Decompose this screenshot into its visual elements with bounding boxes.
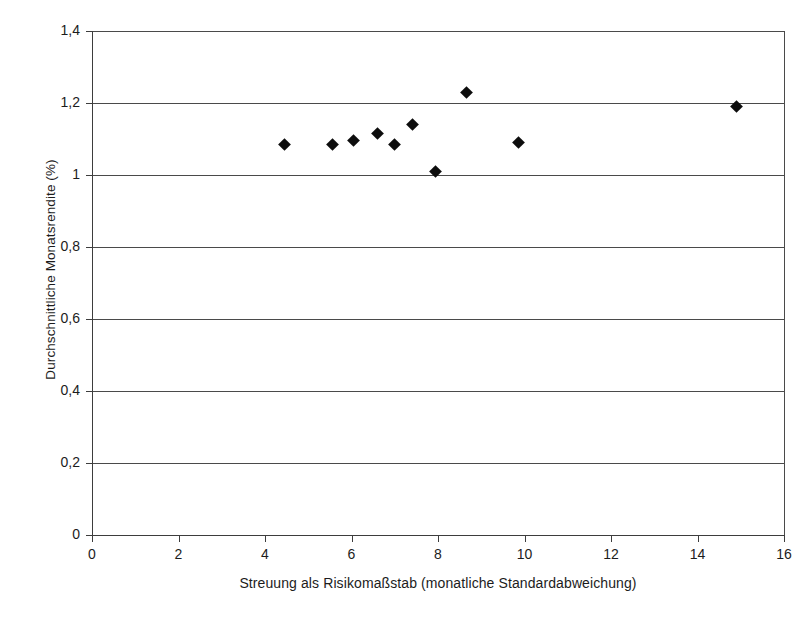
y-axis-tick <box>86 31 93 32</box>
data-point <box>388 138 401 151</box>
x-axis-tick <box>698 535 699 542</box>
x-axis-tick <box>784 535 785 542</box>
data-point <box>406 118 419 131</box>
x-axis-tick-label: 6 <box>330 546 374 562</box>
x-axis-title: Streuung als Risikomaßstab (monatliche S… <box>92 575 784 591</box>
grid-line-horizontal <box>92 319 784 320</box>
x-axis-tick <box>438 535 439 542</box>
x-axis-tick <box>352 535 353 542</box>
y-axis-tick-label: 1 <box>40 166 80 182</box>
y-axis-tick <box>86 103 93 104</box>
y-axis-tick-label: 1,4 <box>40 22 80 38</box>
y-axis-tick-label: 1,2 <box>40 94 80 110</box>
y-axis-tick <box>86 247 93 248</box>
y-axis-tick-label: 0,8 <box>40 238 80 254</box>
plot-right-border <box>784 31 785 535</box>
x-axis-tick-label: 14 <box>676 546 720 562</box>
grid-line-horizontal <box>92 31 784 32</box>
x-axis-tick <box>92 535 93 542</box>
grid-line-horizontal <box>92 247 784 248</box>
x-axis-tick-label: 4 <box>243 546 287 562</box>
grid-line-horizontal <box>92 463 784 464</box>
plot-area <box>92 31 784 535</box>
x-axis-tick-label: 10 <box>503 546 547 562</box>
data-point <box>512 136 525 149</box>
y-axis-tick <box>86 319 93 320</box>
x-axis-tick <box>611 535 612 542</box>
y-axis-tick-label: 0,6 <box>40 310 80 326</box>
x-axis-tick <box>265 535 266 542</box>
y-axis-tick-label: 0 <box>40 526 80 542</box>
data-point <box>347 134 360 147</box>
data-point <box>326 138 339 151</box>
y-axis-tick-label: 0,4 <box>40 382 80 398</box>
data-point <box>460 86 473 99</box>
x-axis-tick-label: 8 <box>416 546 460 562</box>
data-point <box>371 127 384 140</box>
y-axis-tick <box>86 391 93 392</box>
x-axis-tick <box>525 535 526 542</box>
x-axis-tick-label: 2 <box>157 546 201 562</box>
x-axis-tick <box>179 535 180 542</box>
x-axis-tick-label: 16 <box>762 546 804 562</box>
y-axis-tick <box>86 175 93 176</box>
y-axis-tick <box>86 463 93 464</box>
y-axis-tick-label: 0,2 <box>40 454 80 470</box>
data-point <box>278 138 291 151</box>
x-axis-tick-label: 0 <box>70 546 114 562</box>
y-axis-tick-labels: 00,20,40,60,811,21,4 <box>28 0 80 626</box>
scatter-chart-figure: Durchschnittliche Monatsrendite (%) 00,2… <box>0 0 804 626</box>
x-axis-tick-label: 12 <box>589 546 633 562</box>
grid-line-horizontal <box>92 391 784 392</box>
grid-line-horizontal <box>92 103 784 104</box>
